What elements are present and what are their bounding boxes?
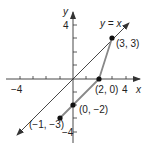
coordinate-graph: y x y = x 4 −4 4 −4 (3, 3) (2, 0) (0, −2… bbox=[0, 0, 146, 147]
point-label-3-3: (3, 3) bbox=[116, 38, 139, 49]
y-axis-label: y bbox=[62, 6, 69, 17]
point-2-0 bbox=[96, 76, 101, 81]
point-3-3 bbox=[109, 35, 114, 40]
point-label-0-neg2: (0, −2) bbox=[79, 104, 108, 115]
tick-label-x-4: 4 bbox=[122, 84, 128, 95]
x-axis-label: x bbox=[135, 84, 142, 95]
point-label-2-0: (2, 0) bbox=[95, 84, 118, 95]
tick-label-x-neg4: −4 bbox=[11, 84, 23, 95]
point-label-neg1-neg3: (−1, −3) bbox=[29, 119, 64, 130]
line-label: y = x bbox=[99, 18, 122, 29]
tick-label-y-4: 4 bbox=[63, 20, 69, 31]
point-0-neg2 bbox=[70, 102, 75, 107]
